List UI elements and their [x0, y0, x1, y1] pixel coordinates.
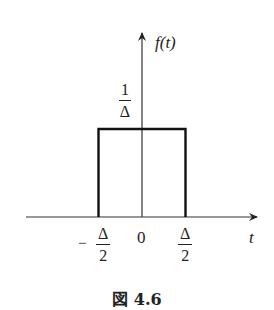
y-axis-label: f(t) — [155, 34, 176, 51]
tick-neg-half-delta: Δ 2 — [96, 226, 110, 264]
height-denominator: Δ — [120, 101, 130, 120]
tick-pos-numerator: Δ — [178, 226, 192, 245]
height-label: 1 Δ — [119, 82, 131, 120]
tick-zero: 0 — [137, 229, 146, 246]
tick-pos-half-delta: Δ 2 — [178, 226, 192, 264]
tick-neg-denominator: 2 — [99, 245, 107, 264]
tick-neg-sign: − — [78, 236, 86, 251]
pulse-diagram — [0, 0, 274, 310]
tick-neg-numerator: Δ — [96, 226, 110, 245]
figure-caption: 図 4.6 — [0, 286, 274, 310]
tick-pos-denominator: 2 — [181, 245, 189, 264]
height-numerator: 1 — [119, 82, 131, 101]
x-axis-label: t — [249, 229, 254, 246]
